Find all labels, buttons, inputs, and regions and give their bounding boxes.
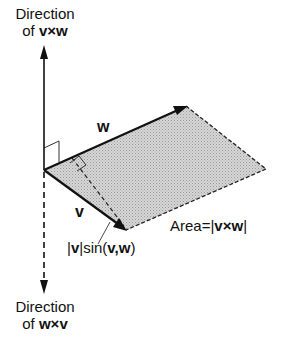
vxw-expr: v×w [39,22,68,39]
cross-product-diagram: Direction of v×w w v Area=|v×w| |v|sin(v… [0,0,285,340]
v-label: v [75,203,84,220]
of-text: of [22,22,39,39]
v-bold: v [71,239,79,256]
w-text: w [97,118,109,135]
top-direction-label: Direction of v×w [0,5,90,39]
bottom-direction-label: Direction of w×v [0,298,90,332]
area-label: Area=|v×w| [170,217,247,234]
top-label-line1: Direction [0,5,90,22]
diagram-graphics [0,0,285,340]
area-expr: v×w [214,217,243,234]
v-text: v [75,203,84,220]
area-prefix: Area=| [170,217,214,234]
of-text: of [22,315,39,332]
sin-args: v,w [107,239,130,256]
bottom-label-line1: Direction [0,298,90,315]
height-label: |v|sin(v,w) [67,239,135,256]
top-label-line2: of v×w [0,22,90,39]
sin-close: ) [130,239,135,256]
up-arrow-icon [40,45,48,59]
bottom-label-line2: of w×v [0,315,90,332]
w-label: w [97,118,109,135]
area-suffix: | [243,217,247,234]
wxv-expr: w×v [39,315,68,332]
down-arrow-icon [40,280,48,294]
sin-open: |sin( [79,239,107,256]
